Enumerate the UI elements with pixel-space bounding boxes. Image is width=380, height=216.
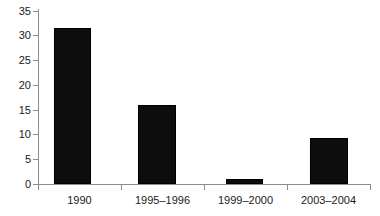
x-axis-label-2003-2004: 2003–2004 [287,194,370,206]
y-axis-label-25: 25 [3,55,31,66]
y-axis-label-10: 10 [3,129,31,140]
x-axis-tick-2 [204,185,205,190]
y-axis-tick-10 [33,134,38,135]
bar-1995-1996 [138,105,176,184]
x-axis-tick-0 [38,185,39,190]
y-axis-label-35: 35 [3,6,31,17]
y-axis-line [38,9,39,185]
y-axis-tick-5 [33,159,38,160]
x-axis-label-1995-1996: 1995–1996 [121,194,204,206]
bar-chart: 35 30 25 20 15 10 5 0 1990 1995–1996 199… [0,0,380,216]
bar-2003-2004 [310,138,348,184]
y-axis-label-30: 30 [3,30,31,41]
y-axis-label-0: 0 [3,179,31,190]
y-axis-tick-20 [33,85,38,86]
bar-1990 [54,28,91,184]
y-axis-tick-15 [33,110,38,111]
x-axis-tick-1 [121,185,122,190]
x-axis-label-1999-2000: 1999–2000 [204,194,287,206]
bar-1999-2000 [226,179,263,184]
y-axis-tick-30 [33,35,38,36]
x-axis-tick-4 [370,185,371,190]
y-axis-label-5: 5 [3,154,31,165]
x-axis-label-1990: 1990 [38,194,121,206]
y-axis-label-20: 20 [3,80,31,91]
y-axis-tick-35 [33,11,38,12]
x-axis-tick-3 [287,185,288,190]
y-axis-tick-25 [33,60,38,61]
y-axis-label-15: 15 [3,105,31,116]
